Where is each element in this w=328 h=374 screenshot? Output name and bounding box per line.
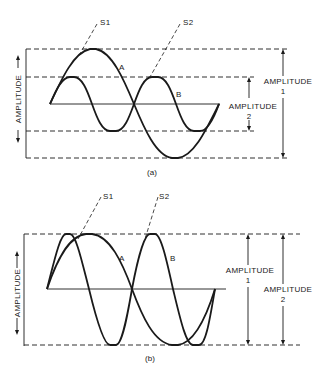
waveform-diagram: S1 S2 A B AMPLITUDE AMPLITUDE 1	[0, 0, 328, 374]
s2-leader-b	[145, 197, 158, 239]
arrow-up-icon	[246, 234, 250, 239]
amplitude-2-label-a: AMPLITUDE	[229, 102, 278, 111]
figure-a: S1 S2 A B AMPLITUDE AMPLITUDE 1	[14, 18, 312, 177]
caption-a: (a)	[147, 168, 157, 177]
amplitude-1-sub-a: 1	[281, 87, 286, 96]
arrow-up-icon	[281, 234, 285, 239]
arrow-down-icon	[16, 138, 20, 143]
s1-label-a: S1	[100, 18, 111, 27]
amplitude-2-sub-a: 2	[247, 112, 252, 121]
arrow-up-icon	[247, 77, 251, 82]
amplitude-1-label-b: AMPLITUDE	[226, 266, 275, 275]
arrow-down-icon	[281, 340, 285, 345]
arrow-up-icon	[281, 49, 285, 54]
wave-a-label-b: A	[119, 254, 125, 263]
arrow-down-icon	[247, 126, 251, 131]
s1-leader-b	[78, 197, 101, 239]
amplitude-2-dimension-b: AMPLITUDE 2	[262, 234, 312, 345]
amplitude-2-label-b: AMPLITUDE	[264, 285, 313, 294]
wave-b-label-a: B	[176, 90, 182, 99]
s2-label-b: S2	[159, 192, 170, 201]
wave-b-curve	[47, 234, 215, 345]
s2-label-a: S2	[183, 18, 194, 27]
y-axis-label-group-b: AMPLITUDE	[13, 251, 22, 335]
arrow-down-icon	[15, 330, 19, 335]
caption-b: (b)	[145, 354, 155, 363]
y-axis-label-group-a: AMPLITUDE	[14, 55, 23, 143]
s1-leader-a	[78, 24, 97, 57]
s2-leader-a	[150, 24, 180, 77]
y-axis-label-b: AMPLITUDE	[13, 269, 22, 318]
amplitude-1-label-a: AMPLITUDE	[264, 77, 313, 86]
arrow-up-icon	[15, 251, 19, 256]
wave-b-label-b: B	[170, 254, 176, 263]
figure-b: S1 S2 A B AMPLITUDE AMPLITUDE 1 AMPLITUD…	[13, 192, 312, 363]
wave-a-curve	[47, 234, 215, 345]
y-axis-label-a: AMPLITUDE	[14, 75, 23, 124]
s1-label-b: S1	[103, 192, 114, 201]
amplitude-1-sub-b: 1	[246, 276, 251, 285]
arrow-down-icon	[246, 340, 250, 345]
arrow-down-icon	[281, 153, 285, 158]
wave-a-label-a: A	[119, 63, 125, 72]
arrow-up-icon	[16, 55, 20, 60]
amplitude-2-sub-b: 2	[281, 295, 286, 304]
